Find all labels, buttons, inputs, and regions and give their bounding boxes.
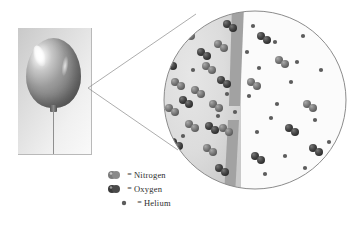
helium-atom [247,94,251,98]
oxygen-molecule-icon [103,184,125,194]
helium-atom [327,140,331,144]
helium-atom [257,66,261,70]
helium-atom [251,24,255,28]
helium-atom [303,166,307,170]
helium-atom [269,116,273,120]
helium-atom [273,40,277,44]
nitrogen-molecule [181,28,195,40]
figure-canvas: = Nitrogen = Oxygen = Helium [0,0,357,226]
oxygen-molecule [173,22,187,34]
helium-atom [263,172,267,176]
helium-atom [245,50,249,54]
helium-atom [295,60,299,64]
helium-atom [319,68,323,72]
legend: = Nitrogen = Oxygen = Helium [103,168,218,210]
legend-label-nitrogen: Nitrogen [134,171,166,180]
helium-atom [289,80,293,84]
helium-atom [313,118,317,122]
legend-item-helium: = Helium [103,196,218,210]
helium-atom [283,154,287,158]
legend-item-oxygen: = Oxygen [103,182,218,196]
legend-equals-nitrogen: = [125,171,134,179]
legend-equals-oxygen: = [125,185,134,193]
legend-equals-helium: = [135,199,144,207]
helium-atom [255,130,259,134]
nitrogen-molecule-icon [103,170,125,180]
helium-atom [181,134,185,138]
helium-atom [225,92,229,96]
helium-atom [301,34,305,38]
legend-label-oxygen: Oxygen [134,185,162,194]
helium-atom [191,68,195,72]
helium-atom [216,114,220,118]
legend-label-helium: Helium [144,199,171,208]
helium-atom [233,110,237,114]
helium-atom [275,102,279,106]
magnified-view [163,10,347,190]
legend-item-nitrogen: = Nitrogen [103,168,218,182]
helium-atom-icon [113,198,135,208]
